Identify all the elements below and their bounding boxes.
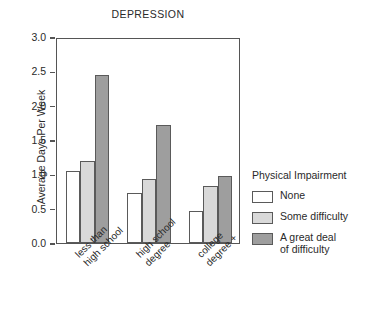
chart-title: DEPRESSION (56, 8, 240, 20)
legend-label-line: A great deal (280, 232, 336, 244)
legend-swatch (252, 233, 273, 245)
legend-entry: None (252, 190, 370, 203)
y-axis-tick-label: 1.5 (0, 134, 46, 146)
bar (127, 193, 142, 243)
bar (189, 211, 204, 243)
chart-figure: DEPRESSION Average Days Per Week 3.02.52… (0, 0, 372, 330)
y-axis-tick-mark (50, 243, 55, 244)
y-axis-tick-label: 0.0 (0, 237, 46, 249)
bar (66, 171, 81, 243)
y-axis-tick-label: 0.5 (0, 203, 46, 215)
legend-entry: Some difficulty (252, 211, 370, 224)
y-axis-tick-mark (50, 175, 55, 176)
y-axis-tick-mark (50, 72, 55, 73)
legend-swatch (252, 212, 273, 224)
y-axis-tick-label: 3.0 (0, 31, 46, 43)
y-axis-tick-label: 2.5 (0, 65, 46, 77)
legend-label-line: of difficulty (280, 244, 336, 256)
y-axis-tick-label: 1.0 (0, 168, 46, 180)
legend-entry: A great dealof difficulty (252, 232, 370, 255)
legend-label-line: Some difficulty (280, 211, 348, 223)
legend-label: None (280, 190, 305, 202)
y-axis-tick-mark (50, 106, 55, 107)
y-axis-tick-mark (50, 140, 55, 141)
legend-label-line: None (280, 190, 305, 202)
y-axis-tick-label: 2.0 (0, 100, 46, 112)
y-axis-tick-mark (50, 37, 55, 38)
legend-label: A great dealof difficulty (280, 232, 336, 255)
legend-entries: NoneSome difficultyA great dealof diffic… (252, 190, 370, 255)
legend-swatch (252, 191, 273, 203)
legend-label: Some difficulty (280, 211, 348, 223)
legend: Physical Impairment NoneSome difficultyA… (252, 169, 370, 263)
plot-area (56, 38, 240, 244)
y-axis-tick-mark (50, 209, 55, 210)
legend-title: Physical Impairment (252, 169, 370, 181)
